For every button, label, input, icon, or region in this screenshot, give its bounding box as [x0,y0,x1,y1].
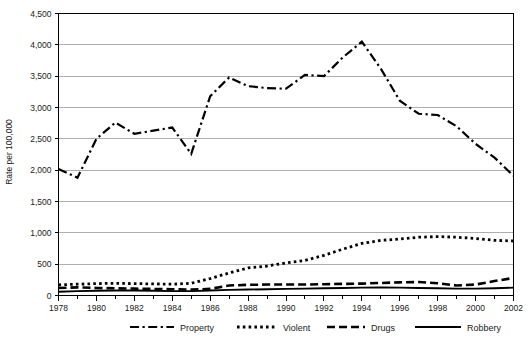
legend-label-drugs: Drugs [371,323,396,333]
chart-legend: PropertyViolentDrugsRobbery [130,323,502,333]
x-tick-label: 1980 [87,303,106,313]
chart-canvas: 05001,0001,5002,0002,5003,0003,5004,0004… [0,0,528,338]
y-tick-label: 2,000 [30,165,52,175]
data-series [59,42,514,292]
x-tick-label: 2000 [466,303,485,313]
x-tick-label: 1988 [239,303,258,313]
series-line-robbery [59,287,514,291]
plot-frame [59,14,514,296]
legend-label-robbery: Robbery [467,323,502,333]
x-tick-label: 2002 [504,303,523,313]
y-tick-label: 1,500 [30,197,52,207]
y-tick-label: 3,500 [30,71,52,81]
series-line-violent [59,237,514,285]
x-tick-label: 1984 [163,303,182,313]
line-chart: 05001,0001,5002,0002,5003,0003,5004,0004… [0,0,528,338]
y-tick-label: 4,000 [30,40,52,50]
y-tick-label: 0 [47,291,52,301]
y-tick-label: 4,500 [30,9,52,19]
y-axis-label: Rate per 100,000 [4,119,14,185]
x-tick-label: 1978 [49,303,68,313]
y-axis-ticks: 05001,0001,5002,0002,5003,0003,5004,0004… [30,9,58,301]
series-line-property [59,42,514,178]
x-tick-label: 1992 [314,303,333,313]
y-tick-label: 3,000 [30,103,52,113]
x-tick-label: 1982 [125,303,144,313]
x-tick-label: 1986 [201,303,220,313]
y-axis-title: Rate per 100,000 [4,119,14,185]
x-tick-label: 1998 [428,303,447,313]
legend-label-violent: Violent [283,323,311,333]
y-tick-label: 2,500 [30,134,52,144]
x-axis-ticks: 1978198019821984198619881990199219941996… [49,296,523,313]
y-tick-label: 1,000 [30,228,52,238]
x-tick-label: 1990 [277,303,296,313]
gridlines [59,14,514,265]
x-tick-label: 1994 [352,303,371,313]
y-tick-label: 500 [37,259,51,269]
legend-label-property: Property [180,323,215,333]
x-tick-label: 1996 [390,303,409,313]
